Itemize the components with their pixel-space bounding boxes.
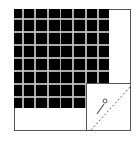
pen-icon [87,84,132,132]
inset-box [86,83,131,131]
